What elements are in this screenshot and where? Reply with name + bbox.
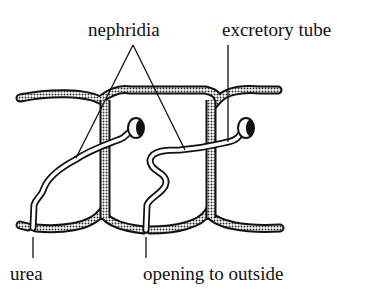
diagram-drawing	[0, 0, 386, 301]
label-nephridia: nephridia	[88, 20, 160, 39]
nephridia-diagram: nephridia excretory tube urea opening to…	[0, 0, 386, 301]
label-urea: urea	[10, 264, 43, 283]
nephridium-right	[146, 118, 254, 230]
label-excretory-tube: excretory tube	[222, 20, 331, 39]
body-wall-top	[20, 89, 278, 100]
label-opening-to-outside: opening to outside	[143, 264, 283, 283]
